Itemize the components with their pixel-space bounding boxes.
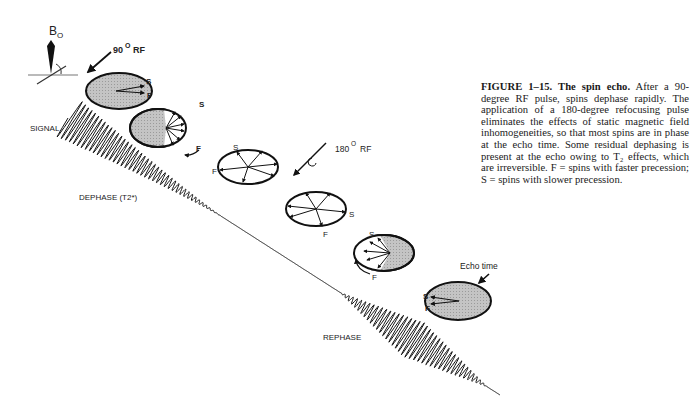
- rf-180-unit: RF: [360, 144, 371, 154]
- rf-90-value: 90: [113, 45, 123, 55]
- signal-label: SIGNAL: [30, 124, 60, 133]
- rf-90-degree: O: [125, 42, 131, 49]
- dephase-label: DEPHASE (T2*): [79, 193, 138, 202]
- rf-90-pulse: 90 O RF: [88, 42, 145, 72]
- rf-180-value: 180: [335, 144, 349, 154]
- rotation-icon: [308, 158, 316, 166]
- b0-vector-icon: [47, 40, 55, 74]
- slow-label: S: [349, 210, 354, 219]
- slow-label: S: [233, 143, 238, 152]
- spin-state-4-flipped: S F: [286, 192, 354, 239]
- signal-waveform: [57, 102, 500, 395]
- signal-trace: SIGNAL DEPHASE (T2*) REPHASE: [30, 102, 500, 395]
- spin-state-5-rephasing: S F: [350, 230, 414, 282]
- rf-90-unit: RF: [133, 45, 145, 55]
- spin-state-2-dephasing: S F: [130, 100, 205, 155]
- fast-label: F: [425, 304, 430, 313]
- b0-label: B: [49, 24, 57, 38]
- b0-field-symbol: B O: [28, 24, 78, 84]
- caption-text: After a 90-degree RF pulse, spins dephas…: [481, 81, 689, 185]
- fast-label: F: [147, 91, 152, 100]
- spin-state-6-echo: S F Echo time: [423, 261, 498, 320]
- rf-180-pulse: 180 O RF: [294, 140, 371, 175]
- figure-caption: FIGURE 1–15. The spin echo. After a 90-d…: [481, 81, 689, 185]
- spin-echo-diagram: B O 90 O RF S F S F: [0, 0, 690, 412]
- spin-state-1-in-phase: S F: [86, 73, 152, 109]
- spin-state-3-dephased: S F: [212, 143, 278, 184]
- caption-heading: FIGURE 1–15. The spin echo.: [481, 81, 630, 92]
- fast-label: F: [212, 167, 217, 176]
- slow-label: S: [423, 292, 429, 301]
- echo-time-label: Echo time: [460, 261, 498, 271]
- slow-label: S: [369, 230, 374, 239]
- fast-label: F: [323, 230, 328, 239]
- rephase-label: REPHASE: [323, 333, 361, 342]
- slow-label: S: [199, 100, 205, 109]
- fast-label: F: [372, 273, 377, 282]
- b0-subscript: O: [57, 31, 63, 40]
- rf-180-degree: O: [351, 140, 356, 147]
- slow-label: S: [146, 77, 152, 86]
